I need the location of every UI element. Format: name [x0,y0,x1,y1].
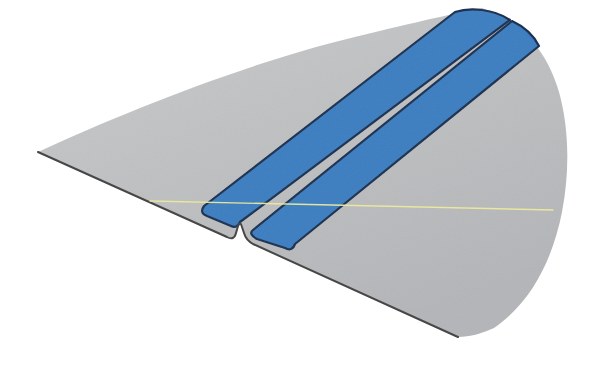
wing-render-scene [0,0,601,367]
shape-layer [38,8,567,337]
figure-canvas [0,0,601,367]
grain-overlay [38,8,567,337]
